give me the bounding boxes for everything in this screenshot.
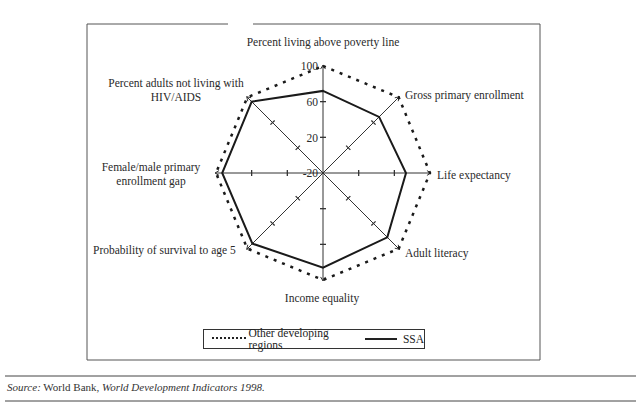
tick-label-60: 60 (296, 95, 318, 109)
axis-label-gender-gap: Female/male primary enrollment gap (96, 160, 206, 188)
source-prefix: Source: (7, 381, 41, 393)
axis-label-hiv: Percent adults not living with HIV/AIDS (96, 76, 256, 104)
figure: 100 60 20 -20 Percent living above pover… (0, 0, 636, 408)
legend-label-other: Other developing regions (249, 327, 358, 351)
axis-label-income-equality: Income equality (262, 291, 382, 305)
legend: Other developing regions SSA (203, 329, 425, 349)
axis-label-life-expectancy: Life expectancy (437, 168, 511, 182)
legend-swatch-dotted (212, 337, 246, 341)
axis-label-hiv-line1: Percent adults not living with (96, 76, 256, 90)
legend-swatch-solid (365, 338, 397, 340)
source-note: Source: World Bank, World Development In… (7, 381, 265, 393)
axis-label-poverty: Percent living above poverty line (223, 35, 423, 49)
frame (87, 24, 540, 360)
axis-label-gender-gap-line1: Female/male primary (96, 160, 206, 174)
source-text: World Bank, (41, 381, 102, 393)
axis-label-hiv-line2: HIV/AIDS (96, 90, 256, 104)
source-title: World Development Indicators 1998. (102, 381, 265, 393)
tick-label-20: 20 (296, 131, 318, 145)
axis-label-survival: Probability of survival to age 5 (93, 243, 236, 257)
legend-label-ssa: SSA (403, 333, 424, 345)
axis-label-gross-primary: Gross primary enrollment (405, 88, 524, 102)
axis-label-gender-gap-line2: enrollment gap (96, 174, 206, 188)
tick-label-100: 100 (296, 59, 318, 73)
tick-label-minus-20: -20 (294, 166, 318, 180)
axis-label-adult-literacy: Adult literacy (405, 246, 469, 260)
axis-line (247, 173, 323, 249)
